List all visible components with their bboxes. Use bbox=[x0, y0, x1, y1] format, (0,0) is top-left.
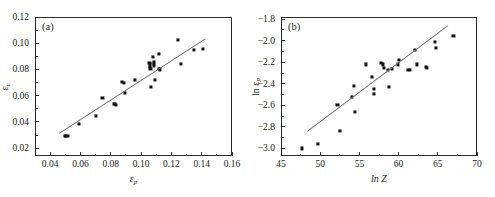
y-tick bbox=[35, 69, 39, 70]
x-tick-minor bbox=[65, 154, 66, 157]
y-axis-title-b-subscript: p bbox=[254, 78, 262, 82]
y-tick bbox=[281, 19, 285, 20]
y-tick-minor bbox=[35, 56, 38, 57]
data-point bbox=[149, 67, 152, 70]
y-tick-label: −2.8 bbox=[247, 122, 275, 132]
y-tick bbox=[281, 62, 285, 63]
data-point bbox=[435, 47, 438, 50]
x-tick-label: 0.06 bbox=[72, 159, 89, 169]
x-tick-label: 45 bbox=[276, 159, 286, 169]
data-point bbox=[372, 88, 375, 91]
y-axis-title-a-subscript: c bbox=[4, 83, 12, 86]
data-point bbox=[352, 84, 355, 87]
y-tick-label: −1.8 bbox=[247, 14, 275, 24]
data-point bbox=[157, 52, 160, 55]
data-point bbox=[133, 79, 136, 82]
y-tick bbox=[35, 95, 39, 96]
y-axis-title-b-symbol: ln ε bbox=[250, 81, 261, 95]
x-tick bbox=[359, 152, 360, 156]
data-point bbox=[153, 78, 156, 81]
y-tick-minor bbox=[281, 137, 284, 138]
x-tick bbox=[232, 152, 233, 156]
y-tick-minor bbox=[281, 73, 284, 74]
data-point bbox=[115, 103, 118, 106]
data-point bbox=[409, 68, 412, 71]
data-point bbox=[382, 66, 385, 69]
x-tick-minor bbox=[125, 154, 126, 157]
x-tick-label: 60 bbox=[394, 159, 404, 169]
x-tick bbox=[80, 152, 81, 156]
x-axis-title-a: εp bbox=[130, 173, 137, 186]
x-tick bbox=[171, 152, 172, 156]
data-point bbox=[77, 122, 80, 125]
y-tick bbox=[281, 40, 285, 41]
y-tick-minor bbox=[35, 135, 38, 136]
x-tick-minor bbox=[156, 154, 157, 157]
y-tick bbox=[35, 148, 39, 149]
panel-b: (b) 455055606570−1.8−2.0−2.2−2.4−2.6−2.8… bbox=[247, 0, 495, 197]
x-tick bbox=[141, 152, 142, 156]
y-tick-label: 0.10 bbox=[0, 38, 29, 48]
data-point bbox=[425, 66, 428, 69]
x-tick-minor bbox=[339, 154, 340, 157]
x-tick-label: 0.08 bbox=[102, 159, 119, 169]
data-point bbox=[153, 64, 156, 67]
data-point bbox=[373, 92, 376, 95]
y-tick-minor bbox=[281, 29, 284, 30]
y-tick bbox=[281, 148, 285, 149]
x-tick-label: 0.12 bbox=[163, 159, 180, 169]
data-point bbox=[101, 96, 104, 99]
x-tick bbox=[201, 152, 202, 156]
data-point bbox=[66, 134, 69, 137]
plot-area-b bbox=[281, 17, 477, 156]
x-tick bbox=[110, 152, 111, 156]
y-tick-label: −2.6 bbox=[247, 100, 275, 110]
y-tick bbox=[35, 43, 39, 44]
x-tick-label: 0.10 bbox=[133, 159, 150, 169]
data-point bbox=[388, 85, 391, 88]
y-tick-label: 0.06 bbox=[0, 91, 29, 101]
x-tick-label: 70 bbox=[472, 159, 482, 169]
y-tick bbox=[281, 83, 285, 84]
x-tick-minor bbox=[216, 154, 217, 157]
x-axis-title-b: ln Z bbox=[371, 173, 387, 184]
y-tick-label: 0.02 bbox=[0, 143, 29, 153]
y-tick-label: −3.0 bbox=[247, 143, 275, 153]
data-point bbox=[201, 47, 204, 50]
x-tick-label: 0.14 bbox=[193, 159, 210, 169]
y-tick-minor bbox=[281, 51, 284, 52]
panel-b-tag: (b) bbox=[288, 21, 300, 32]
x-tick bbox=[281, 152, 282, 156]
data-point bbox=[95, 114, 98, 117]
x-tick bbox=[320, 152, 321, 156]
y-tick-minor bbox=[281, 94, 284, 95]
data-point bbox=[316, 143, 319, 146]
y-tick bbox=[281, 105, 285, 106]
data-point bbox=[149, 85, 152, 88]
y-tick-minor bbox=[35, 30, 38, 31]
data-point bbox=[123, 81, 126, 84]
data-point bbox=[353, 110, 356, 113]
panel-a: (a) 0.040.060.080.100.120.140.160.020.04… bbox=[0, 0, 248, 197]
data-point bbox=[415, 63, 418, 66]
x-tick bbox=[50, 152, 51, 156]
data-point bbox=[301, 147, 304, 150]
data-point bbox=[364, 63, 367, 66]
x-tick-minor bbox=[300, 154, 301, 157]
data-point bbox=[152, 56, 155, 59]
x-tick-label: 0.16 bbox=[224, 159, 241, 169]
x-axis-title-a-subscript: p bbox=[134, 178, 138, 186]
y-tick bbox=[35, 17, 39, 18]
y-tick bbox=[281, 126, 285, 127]
y-tick-minor bbox=[35, 108, 38, 109]
x-tick bbox=[477, 152, 478, 156]
y-axis-title-b: ln εp bbox=[250, 78, 263, 96]
figure-two-panel-scatter: (a) 0.040.060.080.100.120.140.160.020.04… bbox=[0, 0, 495, 197]
y-tick-label: 0.08 bbox=[0, 64, 29, 74]
y-tick-label: −2.2 bbox=[247, 57, 275, 67]
data-point bbox=[192, 48, 195, 51]
x-tick-label: 55 bbox=[355, 159, 365, 169]
y-tick bbox=[35, 121, 39, 122]
y-tick-minor bbox=[281, 116, 284, 117]
x-tick-minor bbox=[95, 154, 96, 157]
